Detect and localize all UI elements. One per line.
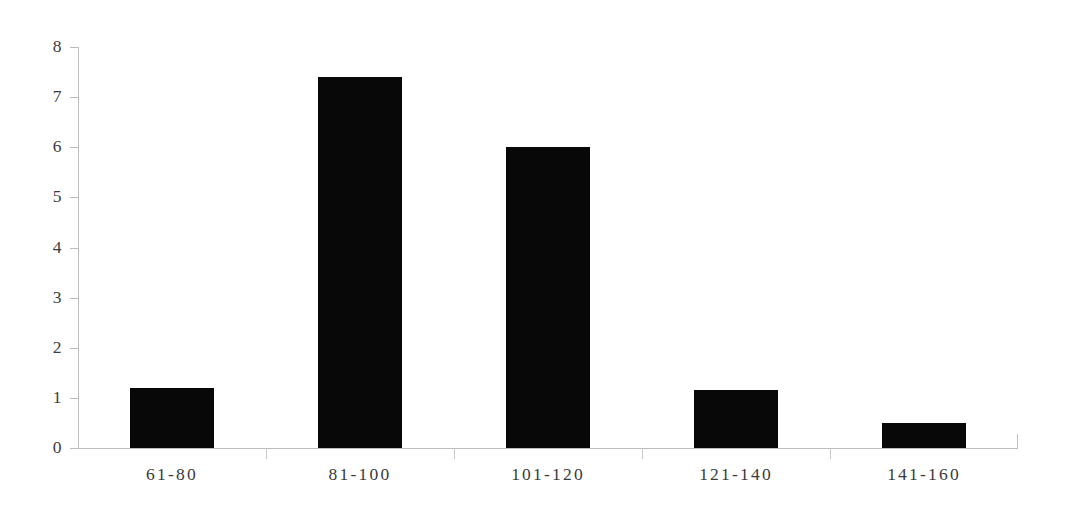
bar-chart: 012345678 61-8081-100101-120121-140141-1… bbox=[0, 0, 1067, 513]
x-axis-category-label: 121-140 bbox=[642, 466, 830, 484]
x-axis-tick bbox=[454, 448, 455, 459]
x-axis-line bbox=[78, 448, 1018, 449]
x-axis-category-label: 101-120 bbox=[454, 466, 642, 484]
bar bbox=[506, 147, 590, 448]
y-axis-tick bbox=[70, 197, 79, 198]
y-axis-tick-label: 4 bbox=[22, 239, 62, 257]
y-axis-tick bbox=[70, 348, 79, 349]
x-axis-end-cap bbox=[1017, 434, 1018, 449]
y-axis-tick-label: 3 bbox=[22, 289, 62, 307]
y-axis-tick bbox=[70, 47, 79, 48]
bar bbox=[694, 390, 778, 448]
y-axis-tick-label: 5 bbox=[22, 188, 62, 206]
y-axis-tick bbox=[70, 298, 79, 299]
y-axis-tick-label: 8 bbox=[22, 38, 62, 56]
bar bbox=[882, 423, 966, 448]
y-axis-tick bbox=[70, 398, 79, 399]
bar bbox=[318, 77, 402, 448]
x-axis-category-label: 141-160 bbox=[830, 466, 1018, 484]
x-axis-tick bbox=[830, 448, 831, 459]
y-axis-tick-label: 6 bbox=[22, 138, 62, 156]
x-axis-tick bbox=[266, 448, 267, 459]
y-axis-tick bbox=[70, 147, 79, 148]
y-axis-tick-label: 2 bbox=[22, 339, 62, 357]
y-axis-tick-label: 1 bbox=[22, 389, 62, 407]
y-axis-tick bbox=[70, 448, 79, 449]
x-axis-tick bbox=[642, 448, 643, 459]
bar bbox=[130, 388, 214, 448]
y-axis-tick-label: 0 bbox=[22, 439, 62, 457]
y-axis-tick-label: 7 bbox=[22, 88, 62, 106]
x-axis-category-label: 61-80 bbox=[78, 466, 266, 484]
x-axis-category-label: 81-100 bbox=[266, 466, 454, 484]
y-axis-tick bbox=[70, 97, 79, 98]
y-axis-tick bbox=[70, 248, 79, 249]
